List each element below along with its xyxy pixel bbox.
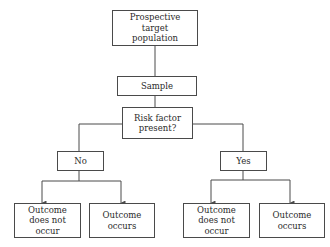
node-risk-factor: Risk factor present?	[122, 107, 193, 139]
node-risk-factor-label: Risk factor present?	[134, 113, 181, 134]
edge-risk-yes	[192, 124, 243, 151]
node-yes-outcome-not-occur: Outcome does not occur	[183, 203, 250, 238]
node-sample: Sample	[117, 76, 197, 96]
edge-risk-no	[79, 124, 122, 151]
node-population: Prospective target population	[112, 10, 198, 46]
node-no-outcome-occurs-label: Outcome occurs	[103, 210, 142, 231]
node-yes-outcome-not-occur-label: Outcome does not occur	[197, 205, 236, 237]
node-yes-label: Yes	[236, 156, 250, 167]
node-no-label: No	[74, 156, 87, 167]
node-no-outcome-not-occur-label: Outcome does not occur	[28, 205, 67, 237]
node-population-label: Prospective target population	[130, 12, 180, 44]
node-no-outcome-not-occur: Outcome does not occur	[14, 203, 81, 238]
node-no: No	[57, 151, 104, 171]
node-yes: Yes	[220, 151, 267, 171]
node-sample-label: Sample	[141, 81, 173, 92]
node-yes-outcome-occurs: Outcome occurs	[259, 203, 325, 238]
node-yes-outcome-occurs-label: Outcome occurs	[273, 210, 312, 231]
node-no-outcome-occurs: Outcome occurs	[89, 203, 155, 238]
